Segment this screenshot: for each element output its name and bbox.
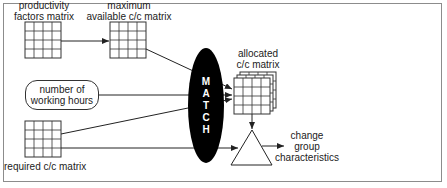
max-available-matrix-label: maximum available c/c matrix: [84, 0, 174, 22]
match-ellipse: M A T C H: [188, 48, 224, 163]
match-letter: H: [202, 124, 209, 136]
output-label: change group characteristics: [272, 130, 342, 163]
required-matrix-label: required c/c matrix: [4, 161, 86, 172]
match-letter: T: [203, 100, 209, 112]
match-letter: C: [202, 112, 209, 124]
productivity-matrix-label: productivity factors matrix: [14, 0, 74, 22]
match-letter: M: [202, 76, 210, 88]
match-letter: A: [202, 88, 209, 100]
working-hours-box: number of working hours: [25, 80, 99, 110]
allocated-matrix-grid: [234, 72, 276, 114]
max-available-matrix-grid: [110, 22, 146, 58]
productivity-matrix-grid: [25, 22, 61, 58]
allocated-matrix-label: allocated c/c matrix: [228, 48, 288, 70]
required-matrix-grid: [25, 121, 61, 157]
